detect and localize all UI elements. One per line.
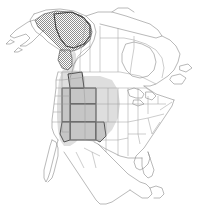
range-map-figure: North America species distribution map [0,0,201,213]
north-america-map [0,0,201,213]
